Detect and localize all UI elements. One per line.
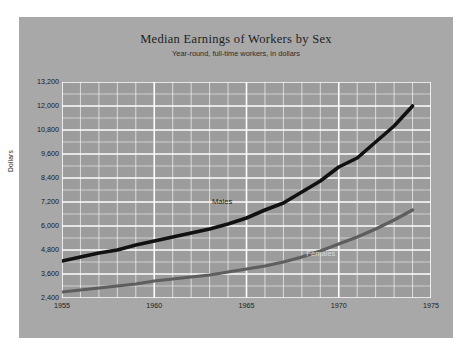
x-axis-tick-label: 1970 [331,301,347,310]
chart-svg [62,82,431,298]
x-axis-ticks: 19551960196519701975 [62,301,431,313]
plot-area: Males Females [62,82,431,298]
chart-card: Median Earnings of Workers by Sex Year-r… [19,17,453,338]
x-axis-tick-label: 1975 [423,301,439,310]
y-axis-tick-label: 4,800 [19,246,59,254]
chart-title: Median Earnings of Workers by Sex [19,32,453,46]
plot-canvas [62,82,431,298]
y-axis-tick-label: 9,600 [19,150,59,158]
y-axis-tick-label: 3,600 [19,270,59,278]
y-axis-tick-label: 7,200 [19,198,59,206]
y-axis-title: Dollars [7,150,14,172]
y-axis-tick-label: 10,800 [19,126,59,134]
y-axis-ticks: 2,4003,6004,8006,0007,2008,4009,60010,80… [18,82,59,298]
y-axis-tick-label: 13,200 [19,78,59,86]
y-axis-tick-label: 2,400 [19,294,59,302]
series-label-females: Females [306,249,335,258]
title-block: Median Earnings of Workers by Sex Year-r… [19,32,453,59]
x-axis-tick-label: 1965 [239,301,255,310]
x-axis-tick-label: 1960 [146,301,162,310]
chart-subtitle: Year-round, full-time workers, in dollar… [19,48,453,59]
y-axis-tick-label: 12,000 [19,102,59,110]
y-axis-tick-label: 8,400 [19,174,59,182]
series-label-males: Males [212,197,232,206]
x-axis-tick-label: 1955 [54,301,70,310]
chart-page: Median Earnings of Workers by Sex Year-r… [0,0,470,352]
y-axis-tick-label: 6,000 [19,222,59,230]
